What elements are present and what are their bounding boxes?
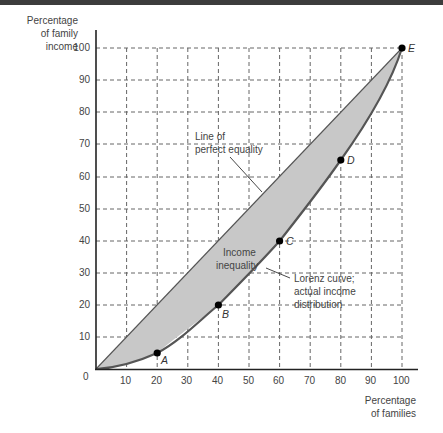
inequality-label-line2: inequality: [216, 260, 258, 272]
y-tick-100: 100: [60, 42, 90, 54]
y-tick-80: 80: [60, 106, 90, 118]
equality-label-line2: perfect equality: [195, 144, 263, 156]
y-tick-40: 40: [60, 235, 90, 247]
x-tick-40: 40: [212, 375, 223, 387]
x-tick-20: 20: [151, 375, 162, 387]
point-a: [154, 349, 161, 356]
y-tick-10: 10: [60, 331, 90, 343]
x-tick-30: 30: [181, 375, 192, 387]
lorenz-label-line3: distribution: [294, 299, 342, 311]
x-tick-90: 90: [365, 375, 376, 387]
x-tick-70: 70: [304, 375, 315, 387]
lorenz-label-line2: actual income: [294, 286, 356, 298]
equality-leader: [230, 157, 262, 192]
point-e: [398, 44, 405, 51]
origin-label: 0: [83, 371, 89, 383]
point-e-label: E: [408, 42, 415, 54]
x-tick-10: 10: [120, 375, 131, 387]
y-tick-60: 60: [60, 171, 90, 183]
y-tick-70: 70: [60, 138, 90, 150]
lorenz-chart: [0, 0, 443, 433]
x-axis-title-line1: Percentage: [320, 395, 416, 407]
point-c-label: C: [286, 235, 294, 247]
x-axis-title-line2: of families: [320, 408, 416, 420]
point-d-label: D: [347, 154, 355, 166]
lorenz-label-line1: Lorenz curve;: [294, 273, 355, 285]
inequality-label-line1: Income: [223, 247, 256, 259]
point-c: [276, 237, 283, 244]
point-b-label: B: [222, 308, 229, 320]
x-tick-60: 60: [273, 375, 284, 387]
point-d: [337, 156, 344, 163]
y-axis-title-line2: of family: [0, 28, 78, 40]
y-tick-30: 30: [60, 267, 90, 279]
x-tick-80: 80: [335, 375, 346, 387]
equality-label-line1: Line of: [195, 131, 225, 143]
y-tick-50: 50: [60, 203, 90, 215]
point-a-label: A: [161, 354, 168, 366]
x-tick-100: 100: [393, 375, 410, 387]
x-tick-50: 50: [243, 375, 254, 387]
y-axis-title-line1: Percentage: [0, 15, 78, 27]
point-b: [215, 301, 222, 308]
y-tick-20: 20: [60, 299, 90, 311]
y-tick-90: 90: [60, 74, 90, 86]
